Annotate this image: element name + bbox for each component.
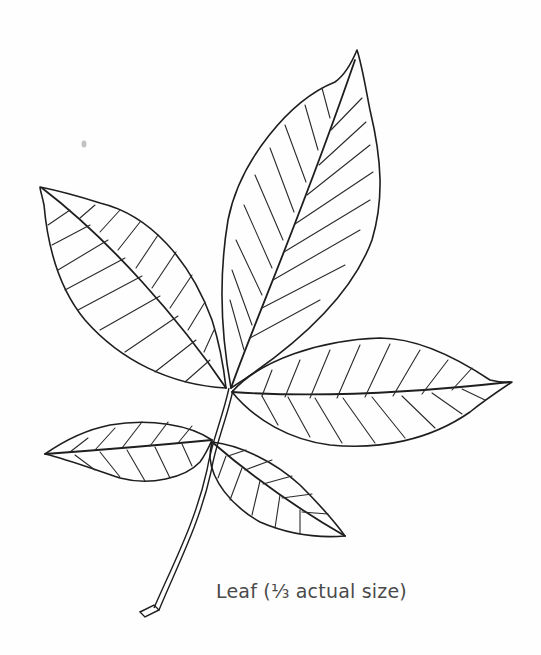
leaflet-top — [222, 50, 380, 388]
leaflet-upper-left — [40, 187, 226, 388]
leaflet-lower-left — [45, 422, 212, 481]
leaf-illustration — [0, 0, 541, 655]
speck-mark — [82, 141, 87, 148]
leaflet-right — [232, 338, 512, 446]
leaflet-lower-right — [210, 442, 345, 537]
figure-page: Leaf (⅓ actual size) — [0, 0, 541, 655]
figure-caption: Leaf (⅓ actual size) — [216, 580, 407, 602]
